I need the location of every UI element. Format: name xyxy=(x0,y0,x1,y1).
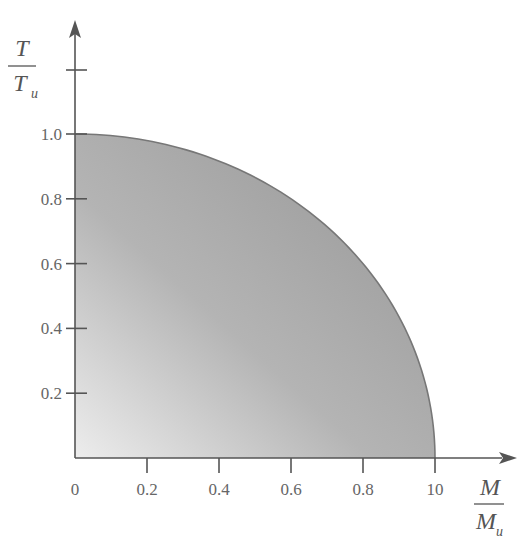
x-label-subscript: u xyxy=(496,524,503,539)
y-label-numerator: T xyxy=(15,35,30,61)
x-tick-label: 0.8 xyxy=(352,480,373,499)
interaction-envelope-area xyxy=(75,134,435,458)
y-tick-label: 0.6 xyxy=(41,255,62,274)
y-tick-label: 1.0 xyxy=(41,125,62,144)
x-tick-label: 10 xyxy=(427,480,444,499)
y-label-subscript: u xyxy=(31,86,38,101)
x-label-numerator: M xyxy=(479,474,502,500)
interaction-chart: 00.20.40.60.810 0.20.40.60.81.0 T T u M … xyxy=(0,0,525,548)
y-axis-label: T T u xyxy=(8,35,38,101)
x-ticks: 00.20.40.60.810 xyxy=(71,458,444,499)
y-tick-label: 0.4 xyxy=(41,319,63,338)
x-tick-label: 0.2 xyxy=(136,480,157,499)
y-label-denominator: T xyxy=(13,70,28,96)
x-label-denominator: M xyxy=(475,508,498,534)
x-tick-label: 0 xyxy=(71,480,80,499)
y-tick-label: 0.2 xyxy=(41,384,62,403)
x-tick-label: 0.6 xyxy=(280,480,301,499)
x-tick-label: 0.4 xyxy=(208,480,230,499)
y-tick-label: 0.8 xyxy=(41,190,62,209)
x-axis-label: M u M xyxy=(474,474,504,539)
